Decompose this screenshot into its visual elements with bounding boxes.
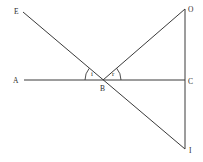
angle-arc-i <box>85 68 89 80</box>
point-label-o: O <box>188 5 194 14</box>
point-label-b: B <box>100 84 105 93</box>
point-label-i: I <box>189 146 192 155</box>
segment-b-o <box>103 9 185 80</box>
point-label-c: C <box>188 77 193 86</box>
angle-label-r: r <box>112 70 115 78</box>
point-label-a: A <box>13 76 19 85</box>
reflection-diagram: i r E A B C O I <box>0 0 203 162</box>
angle-arc-r <box>117 68 121 80</box>
point-label-e: E <box>14 7 19 16</box>
angle-label-i: i <box>91 70 93 78</box>
